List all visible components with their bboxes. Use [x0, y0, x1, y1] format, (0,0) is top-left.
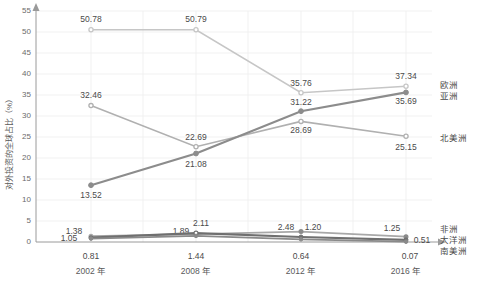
data-point-europe-2012 [299, 91, 303, 95]
data-label-south-america-2012: 0.64 [293, 251, 310, 261]
y-tick-30: 30 [22, 111, 31, 120]
chart-canvas: 55 50 45 40 35 30 25 20 15 10 5 0 对外投资的全… [0, 0, 479, 283]
series-line-asia [91, 92, 406, 185]
data-label-oceania-2016: 0.51 [414, 235, 431, 245]
y-tick-10: 10 [22, 195, 31, 204]
data-label-north-america-2016: 25.15 [395, 142, 417, 152]
legend-item-africa[interactable]: 非洲 [440, 224, 458, 234]
y-axis-tick-labels: 55 50 45 40 35 30 25 20 15 10 5 0 [22, 6, 31, 246]
y-tick-35: 35 [22, 90, 31, 99]
series-line-north-america [91, 106, 406, 147]
data-label-oceania-2008: 2.11 [193, 218, 209, 228]
data-point-asia-2008 [194, 151, 199, 156]
data-point-asia-2002 [89, 183, 94, 188]
data-point-south-america-2008 [194, 234, 198, 238]
data-point-south-america-2012 [299, 238, 303, 242]
data-point-north-america-2008 [194, 145, 198, 149]
data-label-north-america-2008: 22.69 [185, 132, 207, 142]
data-point-europe-2016 [404, 84, 408, 88]
data-label-oceania-2002: 1.05 [61, 233, 78, 243]
legend-item-europe[interactable]: 欧洲 [440, 80, 458, 90]
x-tick-2002: 2002 年 [76, 266, 106, 276]
data-label-europe-2002: 50.78 [80, 14, 102, 24]
data-label-europe-2012: 35.76 [290, 78, 312, 88]
data-point-asia-2016 [404, 90, 409, 95]
data-label-africa-2016: 1.25 [384, 223, 401, 233]
line-chart: 55 50 45 40 35 30 25 20 15 10 5 0 对外投资的全… [0, 0, 479, 283]
legend-item-north-america[interactable]: 北美洲 [440, 133, 467, 143]
y-tick-20: 20 [22, 153, 31, 162]
data-point-north-america-2012 [299, 119, 303, 123]
data-point-europe-2008 [194, 28, 198, 32]
data-point-south-america-2002 [89, 237, 93, 241]
data-label-asia-2016: 35.69 [395, 96, 417, 106]
data-label-africa-2012: 2.48 [278, 222, 295, 232]
data-label-asia-2002: 13.52 [80, 190, 102, 200]
axes [33, 3, 447, 246]
y-axis-arrow [33, 3, 40, 11]
y-tick-40: 40 [22, 69, 31, 78]
x-tick-2008: 2008 年 [181, 266, 211, 276]
series-europe: 50.78 50.79 35.76 37.34 [80, 14, 417, 95]
y-tick-45: 45 [22, 48, 31, 57]
data-label-asia-2008: 21.08 [185, 159, 207, 169]
data-label-north-america-2002: 32.46 [80, 90, 102, 100]
data-label-europe-2016: 37.34 [395, 71, 417, 81]
data-label-south-america-2008: 1.44 [188, 251, 205, 261]
data-point-north-america-2002 [89, 104, 93, 108]
data-label-asia-2012: 31.22 [290, 97, 312, 107]
series-asia: 13.52 21.08 31.22 35.69 [80, 90, 417, 200]
legend-item-asia[interactable]: 亚洲 [440, 91, 458, 101]
x-tick-2012: 2012 年 [286, 266, 316, 276]
x-tick-2016: 2016 年 [391, 266, 421, 276]
y-axis-title: 对外投资的全球占比（%） [4, 95, 14, 190]
data-label-south-america-2016: 0.07 [402, 251, 419, 261]
vertical-gridlines [91, 11, 406, 242]
legend: 欧洲 亚洲 北美洲 非洲 大洋洲 南美洲 [440, 80, 467, 256]
y-tick-25: 25 [22, 132, 31, 141]
data-point-asia-2012 [299, 109, 304, 114]
data-point-north-america-2016 [404, 134, 408, 138]
y-tick-15: 15 [22, 174, 31, 183]
y-tick-5: 5 [27, 216, 32, 225]
data-label-south-america-2002: 0.81 [83, 251, 100, 261]
series-line-europe [91, 30, 406, 93]
x-axis-tick-labels: 2002 年 2008 年 2012 年 2016 年 [76, 266, 421, 276]
data-point-south-america-2016 [404, 240, 408, 244]
data-label-oceania-2012: 1.20 [305, 222, 322, 232]
data-point-europe-2002 [89, 28, 93, 32]
legend-item-oceania[interactable]: 大洋洲 [440, 235, 467, 245]
y-tick-55: 55 [22, 6, 31, 15]
legend-item-south-america[interactable]: 南美洲 [440, 246, 467, 256]
data-label-north-america-2012: 28.69 [290, 125, 312, 135]
data-point-africa-2012 [299, 230, 303, 234]
y-tick-0: 0 [27, 237, 32, 246]
data-label-europe-2008: 50.79 [185, 14, 207, 24]
y-tick-50: 50 [22, 27, 31, 36]
